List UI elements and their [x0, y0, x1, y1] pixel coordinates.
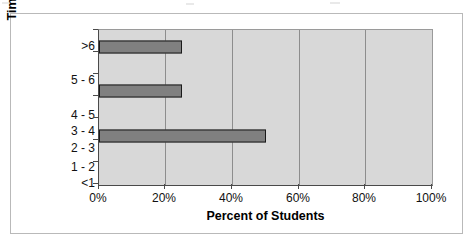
y-axis-tick-label: >6: [35, 29, 95, 63]
y-axis-title: Time to Perform (hrs): [5, 0, 19, 32]
x-axis-title: Percent of Students: [98, 209, 433, 223]
x-axis-tick-label: 100%: [401, 191, 461, 205]
y-axis-labels: >6 5 - 6 4 - 5 3 - 4 2 - 3 1 - 2 <1: [35, 29, 95, 184]
x-axis-tick: [98, 184, 99, 189]
x-axis-tick: [231, 184, 232, 189]
x-axis-tick: [364, 184, 365, 189]
scan-artifact: [330, 2, 340, 4]
x-axis-tick-label: 60%: [268, 191, 328, 205]
x-axis-tick-label: 80%: [334, 191, 394, 205]
x-axis-tick: [431, 184, 432, 189]
y-axis-tick-label: 5 - 6: [35, 63, 95, 97]
plot-area: [98, 29, 433, 186]
x-axis-tick: [298, 184, 299, 189]
scan-artifact: [186, 3, 194, 5]
chart-frame: Time to Perform (hrs) >6 5 - 6 4 - 5 3 -…: [10, 13, 463, 234]
x-axis-tick-label: 40%: [201, 191, 261, 205]
x-axis-tick: [164, 184, 165, 189]
x-axis-tick-label: 0%: [68, 191, 128, 205]
x-axis-tick-label: 20%: [134, 191, 194, 205]
